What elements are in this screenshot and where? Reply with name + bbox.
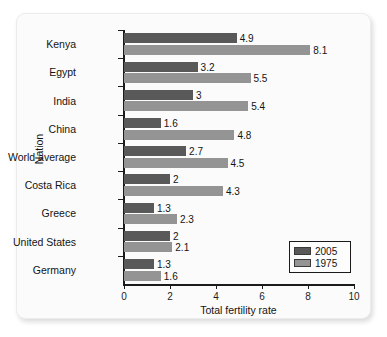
bar-value-2005-kenya: 4.9: [240, 33, 254, 44]
bar-value-1975-germany: 1.6: [164, 270, 178, 281]
bar-1975-world-average[interactable]: [124, 158, 228, 168]
bar-2005-world-average[interactable]: [124, 146, 186, 156]
bar-value-2005-india: 3: [196, 89, 202, 100]
y-tick-0: [118, 30, 123, 31]
bar-1975-kenya[interactable]: [124, 45, 310, 55]
bar-value-1975-kenya: 8.1: [313, 44, 327, 55]
bar-2005-kenya[interactable]: [124, 33, 237, 43]
x-tick-label-0: 0: [121, 291, 127, 302]
bar-value-2005-egypt: 3.2: [201, 61, 215, 72]
y-axis-title: Nation: [33, 119, 45, 179]
legend-label-2005: 2005: [315, 246, 337, 257]
x-tick-0: [124, 284, 125, 289]
x-tick-10: [354, 284, 355, 289]
bar-value-1975-united-states: 2.1: [175, 242, 189, 253]
y-tick-8: [118, 256, 123, 257]
bar-value-2005-china: 1.6: [164, 118, 178, 129]
bar-1975-germany[interactable]: [124, 271, 161, 281]
category-label-costa-rica: Costa Rica: [0, 179, 76, 191]
bar-1975-egypt[interactable]: [124, 73, 251, 83]
bar-value-1975-greece: 2.3: [180, 214, 194, 225]
y-tick-1: [118, 58, 123, 59]
bar-1975-china[interactable]: [124, 130, 234, 140]
x-tick-2: [170, 284, 171, 289]
bar-value-1975-world-average: 4.5: [231, 157, 245, 168]
x-tick-label-8: 8: [305, 291, 311, 302]
legend-item-1975[interactable]: 1975: [294, 257, 346, 269]
category-label-india: India: [0, 95, 76, 107]
y-tick-4: [118, 143, 123, 144]
bar-value-2005-greece: 1.3: [157, 202, 171, 213]
y-tick-5: [118, 171, 123, 172]
bar-1975-united-states[interactable]: [124, 242, 172, 252]
x-tick-8: [308, 284, 309, 289]
bar-2005-greece[interactable]: [124, 203, 154, 213]
x-tick-6: [262, 284, 263, 289]
category-label-united-states: United States: [0, 236, 76, 248]
category-label-germany: Germany: [0, 264, 76, 276]
category-label-kenya: Kenya: [0, 38, 76, 50]
legend-item-2005[interactable]: 2005: [294, 245, 346, 257]
bar-2005-india[interactable]: [124, 90, 193, 100]
x-tick-label-2: 2: [167, 291, 173, 302]
x-axis-title: Total fertility rate: [123, 304, 354, 316]
bar-2005-egypt[interactable]: [124, 62, 198, 72]
bar-value-1975-costa-rica: 4.3: [226, 185, 240, 196]
bar-value-2005-united-states: 2: [173, 230, 179, 241]
y-tick-2: [118, 86, 123, 87]
category-label-greece: Greece: [0, 207, 76, 219]
y-tick-6: [118, 199, 123, 200]
legend-swatch-1975: [294, 259, 311, 267]
bar-2005-germany[interactable]: [124, 259, 154, 269]
x-tick-4: [216, 284, 217, 289]
bar-value-2005-germany: 1.3: [157, 259, 171, 270]
x-axis-line: [123, 284, 354, 286]
y-tick-7: [118, 228, 123, 229]
bar-1975-greece[interactable]: [124, 214, 177, 224]
y-tick-3: [118, 115, 123, 116]
x-tick-label-4: 4: [213, 291, 219, 302]
x-tick-label-6: 6: [259, 291, 265, 302]
x-tick-label-10: 10: [348, 291, 359, 302]
bar-value-2005-costa-rica: 2: [173, 174, 179, 185]
bar-2005-united-states[interactable]: [124, 231, 170, 241]
bar-2005-china[interactable]: [124, 118, 161, 128]
bar-2005-costa-rica[interactable]: [124, 174, 170, 184]
legend-swatch-2005: [294, 247, 311, 255]
bar-value-1975-india: 5.4: [251, 101, 265, 112]
bar-1975-costa-rica[interactable]: [124, 186, 223, 196]
bar-1975-india[interactable]: [124, 101, 248, 111]
bar-value-1975-egypt: 5.5: [254, 73, 268, 84]
bar-chart-plot-area: 0246810 KenyaEgyptIndiaChinaWorld averag…: [17, 14, 372, 320]
category-label-egypt: Egypt: [0, 66, 76, 78]
chart-card: 0246810 KenyaEgyptIndiaChinaWorld averag…: [16, 13, 371, 319]
bar-value-2005-world-average: 2.7: [189, 146, 203, 157]
legend-label-1975: 1975: [315, 258, 337, 269]
bar-value-1975-china: 4.8: [237, 129, 251, 140]
chart-legend[interactable]: 20051975: [289, 241, 351, 273]
